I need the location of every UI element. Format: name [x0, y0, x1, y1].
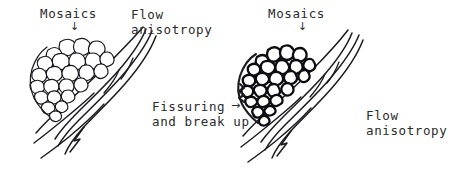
right-mosaic-cluster-broken [238, 45, 315, 125]
fissuring-caption-line2: and break up [152, 114, 250, 129]
left-flow-anisotropy-line1: Flow [131, 7, 164, 22]
right-mosaics-pointer-arrow-icon: ↓ [298, 21, 307, 32]
left-flow-anisotropy-label: Flowanisotropy [131, 7, 212, 37]
figure-canvas: Mosaics ↓ Flowanisotropy Fissuringand br… [0, 0, 471, 175]
left-mosaics-pointer-arrow-icon: ↓ [70, 21, 79, 32]
left-flow-anisotropy-line2: anisotropy [131, 22, 212, 37]
right-flow-anisotropy-line1: Flow [366, 108, 399, 123]
transition-right-arrow-icon: → [231, 100, 240, 111]
right-flow-anisotropy-line2: anisotropy [366, 123, 447, 138]
right-mosaics-label: Mosaics [268, 6, 325, 21]
fissuring-caption-line1: Fissuring [152, 99, 225, 114]
left-mosaics-label: Mosaics [40, 6, 97, 21]
right-flow-anisotropy-label: Flowanisotropy [366, 108, 447, 138]
